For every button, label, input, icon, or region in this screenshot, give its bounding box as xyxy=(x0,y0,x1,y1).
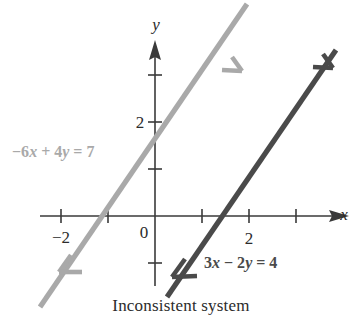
y-tick-label-2: 2 xyxy=(136,113,145,132)
x-tick-label--2: −2 xyxy=(52,228,70,247)
eq-dark-mid: − 2 xyxy=(220,254,245,271)
eq-light-mid: + 4 xyxy=(37,143,62,160)
equation-label-dark: 3x − 2y = 4 xyxy=(204,254,277,272)
eq-light-var-x: x xyxy=(28,143,37,160)
line-light-arrowhead-up xyxy=(222,57,242,71)
x-axis-label: x xyxy=(339,205,348,224)
coordinate-plane: x y −2 2 2 0 −6x + 4y = 7 3x − 2y = 4 xyxy=(0,0,362,329)
eq-dark-tail: = 4 xyxy=(252,254,277,271)
figure-caption: Inconsistent system xyxy=(0,296,362,316)
eq-light-tail: = 7 xyxy=(69,143,94,160)
graph-figure: x y −2 2 2 0 −6x + 4y = 7 3x − 2y = 4 In… xyxy=(0,0,362,329)
eq-dark-var-x: x xyxy=(211,254,220,271)
origin-label: 0 xyxy=(140,223,149,242)
y-axis-label: y xyxy=(150,15,160,34)
x-tick-label-2: 2 xyxy=(245,229,254,248)
eq-light-lead: −6 xyxy=(12,143,29,160)
equation-label-light: −6x + 4y = 7 xyxy=(12,143,94,161)
eq-dark-lead: 3 xyxy=(204,254,212,271)
y-axis-arrowhead xyxy=(149,40,161,60)
